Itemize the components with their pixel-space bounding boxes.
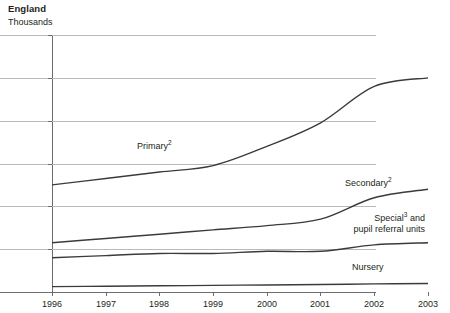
y-tick-mark-40 [48, 206, 52, 207]
x-tick-label-1998: 1998 [139, 299, 179, 309]
x-tick-mark-1997 [106, 292, 107, 296]
series-label-special: Special3 and pupil referral units [337, 213, 425, 235]
series-label-special-and: and [407, 213, 425, 223]
gridline-80 [0, 121, 376, 122]
series-label-nursery: Nursery [352, 262, 384, 272]
series-label-nursery-text: Nursery [352, 262, 384, 272]
x-tick-label-1996: 1996 [32, 299, 72, 309]
x-tick-mark-2001 [320, 292, 321, 296]
x-tick-mark-2000 [267, 292, 268, 296]
series-label-secondary: Secondary2 [345, 178, 392, 188]
y-tick-mark-80 [48, 121, 52, 122]
x-tick-label-1997: 1997 [86, 299, 126, 309]
series-line-primary [52, 78, 428, 185]
y-tick-mark-20 [48, 249, 52, 250]
x-tick-label-2003: 2003 [408, 299, 448, 309]
series-label-secondary-footnote: 2 [388, 176, 392, 183]
series-label-special-line2: pupil referral units [353, 224, 425, 234]
line-chart-figure: England Thousands 120 100 80 60 40 20 0 … [0, 0, 450, 313]
x-tick-mark-1996 [52, 292, 53, 296]
series-label-primary-text: Primary [137, 141, 168, 151]
y-tick-mark-120 [48, 35, 52, 36]
series-label-special-text: Special [374, 213, 404, 223]
series-label-primary-footnote: 2 [168, 139, 172, 146]
gridline-60 [0, 164, 376, 165]
series-line-nursery [52, 283, 428, 286]
x-tick-mark-1998 [159, 292, 160, 296]
series-label-secondary-text: Secondary [345, 178, 388, 188]
y-tick-mark-60 [48, 164, 52, 165]
gridline-40 [0, 206, 376, 207]
gridline-100 [0, 78, 376, 79]
y-axis-unit-label: Thousands [8, 17, 53, 27]
x-tick-label-2001: 2001 [300, 299, 340, 309]
gridline-120 [0, 35, 376, 36]
y-tick-mark-100 [48, 78, 52, 79]
series-line-special [52, 243, 428, 258]
x-tick-mark-2003 [428, 292, 429, 296]
series-label-primary: Primary2 [137, 141, 172, 151]
x-tick-label-1999: 1999 [193, 299, 233, 309]
x-tick-mark-2002 [374, 292, 375, 296]
x-tick-label-2000: 2000 [247, 299, 287, 309]
x-tick-label-2002: 2002 [354, 299, 394, 309]
x-tick-mark-1999 [213, 292, 214, 296]
chart-title: England [8, 3, 46, 14]
gridline-20 [0, 249, 376, 250]
